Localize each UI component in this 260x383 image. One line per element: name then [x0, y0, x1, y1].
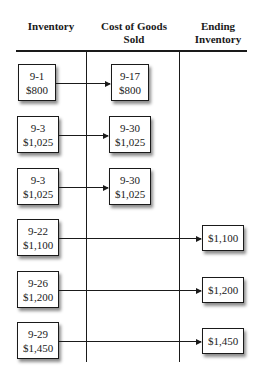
purchase-cost: $800 [26, 83, 48, 97]
flow-arrow [59, 341, 201, 342]
purchase-box: 9-1 $800 [18, 64, 56, 101]
purchase-box: 9-26 $1,200 [17, 271, 59, 308]
purchase-date: 9-1 [30, 69, 45, 83]
flow-arrow [59, 135, 108, 136]
cogs-date: 9-30 [120, 173, 140, 187]
column-header-ending-inventory: Ending Inventory [190, 20, 246, 46]
column-divider-1 [86, 51, 88, 362]
cogs-box: 9-30 $1,025 [109, 168, 151, 205]
ending-cost: $1,200 [208, 283, 238, 297]
purchase-date: 9-3 [31, 173, 46, 187]
purchase-cost: $1,100 [23, 238, 53, 252]
ending-cost: $1,100 [208, 231, 238, 245]
purchase-box: 9-29 $1,450 [17, 322, 59, 359]
cogs-box: 9-17 $800 [111, 64, 149, 101]
flow-arrow [59, 187, 108, 188]
cogs-date: 9-17 [120, 69, 140, 83]
purchase-cost: $1,200 [23, 290, 53, 304]
cogs-cost: $1,025 [115, 187, 145, 201]
ending-inventory-box: $1,100 [202, 225, 244, 251]
purchase-box: 9-22 $1,100 [17, 219, 59, 256]
purchase-cost: $1,025 [23, 135, 53, 149]
ending-inventory-box: $1,200 [202, 277, 244, 303]
column-header-inventory: Inventory [16, 20, 86, 33]
purchase-date: 9-22 [28, 224, 48, 238]
purchase-date: 9-29 [28, 327, 48, 341]
ending-inventory-box: $1,450 [202, 328, 244, 354]
cogs-box: 9-30 $1,025 [109, 116, 151, 153]
column-divider-2 [179, 51, 181, 362]
purchase-box: 9-3 $1,025 [17, 116, 59, 153]
header-rule [16, 50, 247, 52]
column-header-cogs: Cost of Goods Sold [90, 20, 178, 46]
purchase-cost: $1,025 [23, 187, 53, 201]
flow-arrow [56, 83, 110, 84]
purchase-cost: $1,450 [23, 341, 53, 355]
flow-arrow [59, 238, 201, 239]
purchase-box: 9-3 $1,025 [17, 168, 59, 205]
purchase-date: 9-3 [31, 121, 46, 135]
flow-arrow [59, 290, 201, 291]
ending-cost: $1,450 [208, 334, 238, 348]
purchase-date: 9-26 [28, 276, 48, 290]
cogs-date: 9-30 [120, 121, 140, 135]
cogs-cost: $800 [119, 83, 141, 97]
cogs-cost: $1,025 [115, 135, 145, 149]
